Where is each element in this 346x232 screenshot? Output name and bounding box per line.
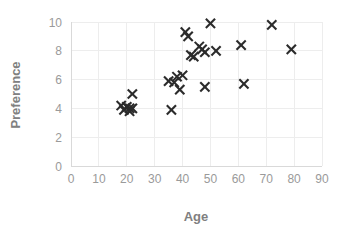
data-point: [184, 32, 193, 41]
y-tick-label: 6: [55, 73, 62, 87]
data-point: [200, 82, 209, 91]
data-markers: [117, 19, 296, 116]
x-tick-label: 90: [315, 172, 329, 186]
y-tick-label: 2: [55, 131, 62, 145]
x-tick-label: 50: [204, 172, 218, 186]
y-tick-label: 10: [49, 16, 63, 30]
y-axis-title: Preference: [8, 61, 23, 128]
x-tick-labels: 0102030405060708090: [68, 172, 329, 186]
y-tick-label: 8: [55, 44, 62, 58]
scatter-chart: 0102030405060708090 0246810 Age Preferen…: [0, 0, 346, 232]
x-tick-label: 10: [92, 172, 106, 186]
x-axis-title: Age: [184, 209, 209, 224]
y-tick-label: 0: [55, 160, 62, 174]
chart-canvas: 0102030405060708090 0246810 Age Preferen…: [0, 0, 346, 232]
data-point: [128, 89, 137, 98]
data-point: [239, 79, 248, 88]
x-tick-label: 30: [148, 172, 162, 186]
data-point: [200, 48, 209, 57]
x-tick-label: 70: [260, 172, 274, 186]
x-tick-label: 60: [232, 172, 246, 186]
x-tick-label: 20: [120, 172, 134, 186]
y-tick-labels: 0246810: [49, 16, 63, 174]
x-tick-label: 0: [68, 172, 75, 186]
data-point: [167, 105, 176, 114]
x-tick-label: 80: [287, 172, 301, 186]
x-tick-label: 40: [176, 172, 190, 186]
y-tick-label: 4: [55, 102, 62, 116]
